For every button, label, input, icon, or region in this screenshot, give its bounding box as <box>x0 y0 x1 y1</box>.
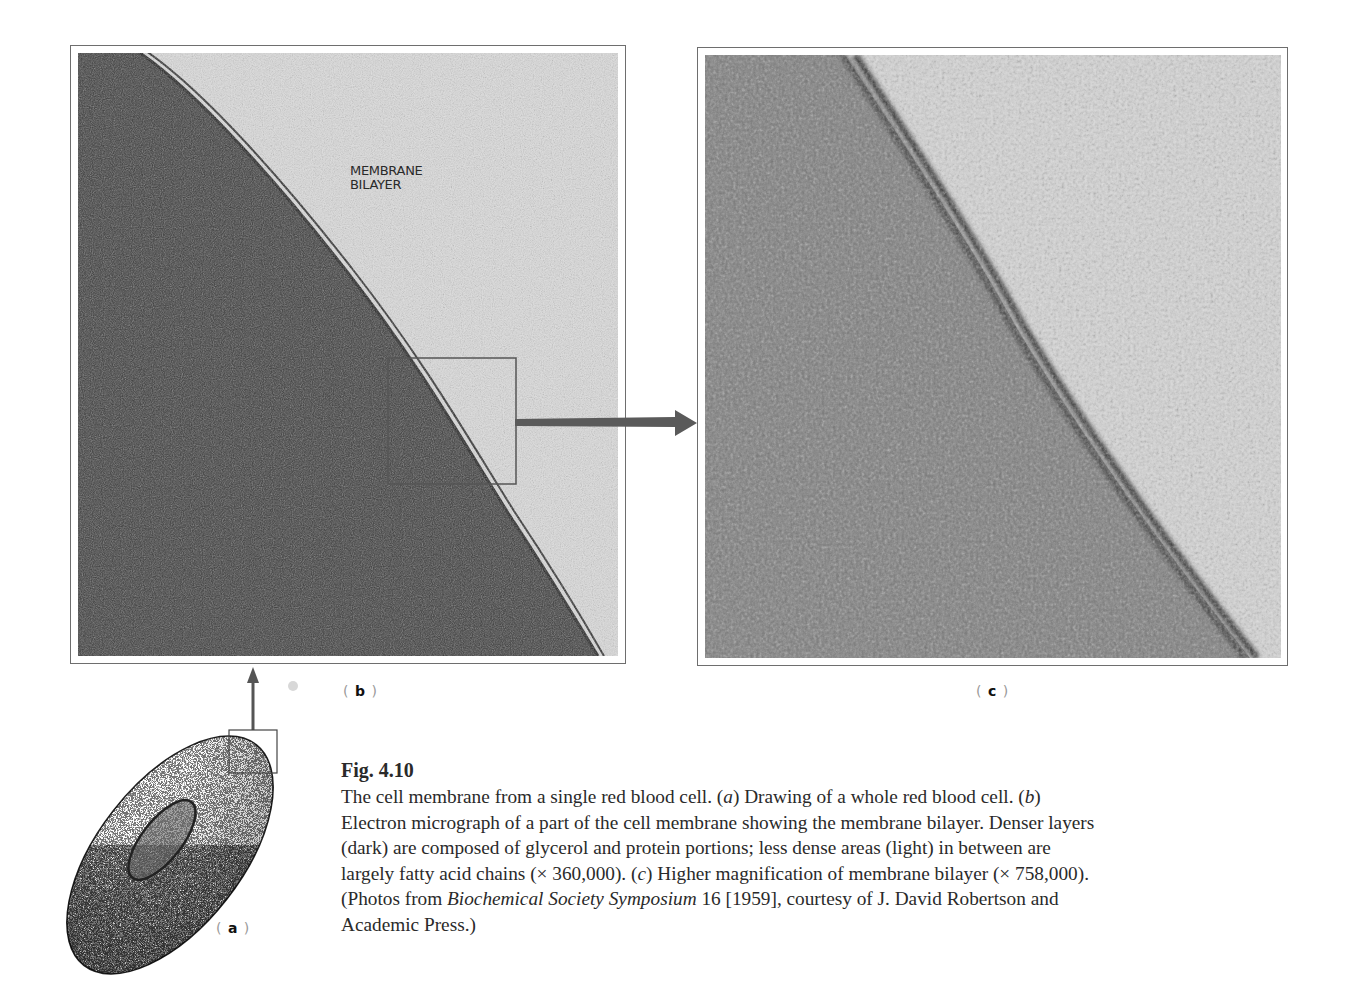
panel-label-a: ( a ) <box>216 920 250 936</box>
panel-label-c: ( c ) <box>976 683 1009 699</box>
panel-letter-a: a <box>228 920 238 936</box>
panel-letter-c: c <box>988 683 997 699</box>
figure-number: Fig. 4.10 <box>341 758 1101 782</box>
panel-label-b: ( b ) <box>343 683 378 699</box>
caption-letter-c: c <box>637 863 646 884</box>
micrograph-b-frame: MEMBRANE BILAYER <box>70 45 626 664</box>
figure-caption: Fig. 4.10 The cell membrane from a singl… <box>341 758 1101 938</box>
caption-letter-b: b <box>1025 786 1035 807</box>
label-line-1: MEMBRANE <box>350 164 423 178</box>
caption-part-1: The cell membrane from a single red bloo… <box>341 786 723 807</box>
arrow-right-icon <box>515 408 700 438</box>
caption-part-2: ) Drawing of a whole red blood cell. ( <box>733 786 1025 807</box>
red-blood-cell-drawing <box>55 665 295 985</box>
micrograph-b-image <box>78 53 618 656</box>
panel-letter-b: b <box>355 683 366 699</box>
membrane-bilayer-label: MEMBRANE BILAYER <box>350 164 423 192</box>
label-line-2: BILAYER <box>350 178 423 192</box>
micrograph-c-frame <box>697 47 1288 666</box>
micrograph-c-image <box>705 55 1281 658</box>
caption-text: The cell membrane from a single red bloo… <box>341 784 1101 938</box>
caption-source-title: Biochemical Society Symposium <box>447 888 697 909</box>
caption-letter-a: a <box>723 786 733 807</box>
